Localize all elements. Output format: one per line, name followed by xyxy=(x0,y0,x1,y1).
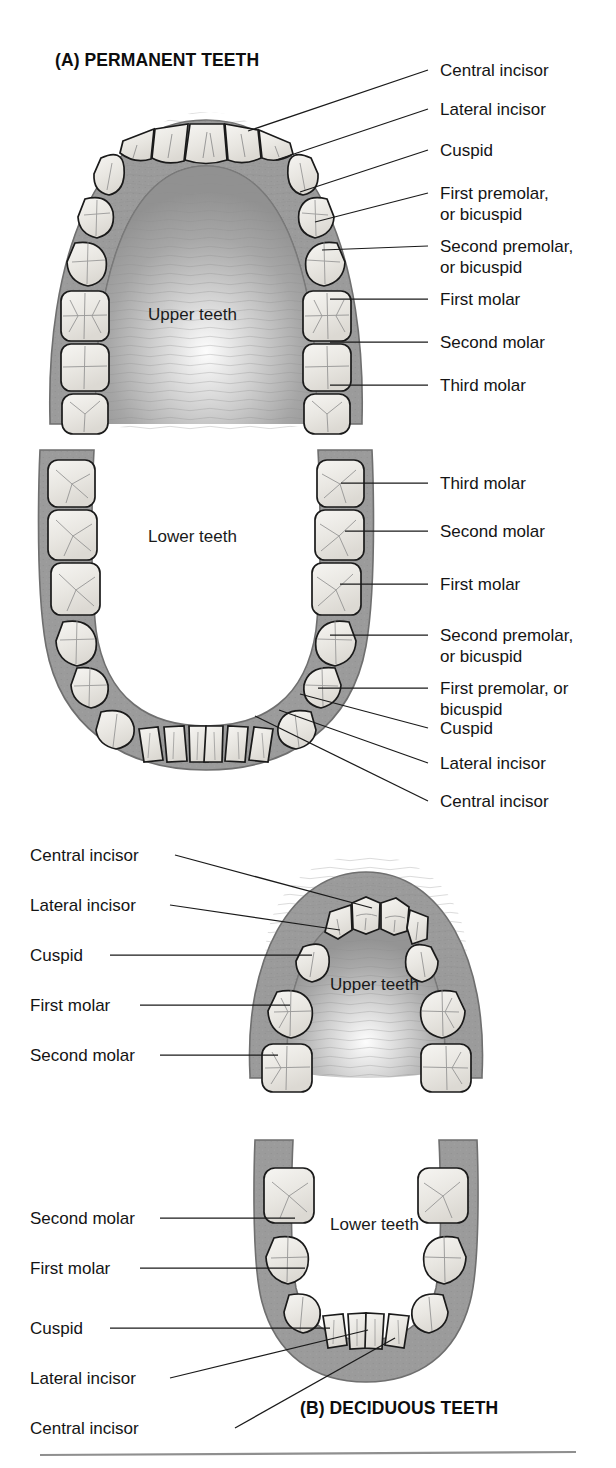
permanent-lower-label: First premolar, or bicuspid xyxy=(440,678,568,720)
permanent-upper-label: Second molar xyxy=(440,332,545,353)
deciduous-upper-label: Lateral incisor xyxy=(30,895,136,916)
permanent-lower-label: Lateral incisor xyxy=(440,753,546,774)
deciduous-lower-label: Central incisor xyxy=(30,1418,139,1439)
permanent-lower-leader xyxy=(255,716,428,801)
permanent-lower-label: Central incisor xyxy=(440,791,549,812)
permanent-upper-leader xyxy=(300,150,428,192)
permanent-upper-label: Second premolar, or bicuspid xyxy=(440,236,573,278)
permanent-upper-label: Third molar xyxy=(440,375,526,396)
permanent-lower-label: Cuspid xyxy=(440,718,493,739)
caption-deciduous-upper: Upper teeth xyxy=(330,975,419,995)
deciduous-lower-label: Second molar xyxy=(30,1208,135,1229)
caption-permanent-lower: Lower teeth xyxy=(148,527,237,547)
permanent-upper-label: First premolar, or bicuspid xyxy=(440,183,549,225)
permanent-upper-label: First molar xyxy=(440,289,520,310)
deciduous-lower-label: First molar xyxy=(30,1258,110,1279)
permanent-lower-label: Second molar xyxy=(440,521,545,542)
permanent-lower-label: Third molar xyxy=(440,473,526,494)
section-a-title: (A) PERMANENT TEETH xyxy=(55,50,259,71)
deciduous-upper-label: Second molar xyxy=(30,1045,135,1066)
permanent-lower-arch xyxy=(39,450,374,770)
permanent-upper-leader xyxy=(248,70,428,131)
deciduous-upper-label: Central incisor xyxy=(30,845,139,866)
section-b-title: (B) DECIDUOUS TEETH xyxy=(300,1398,498,1419)
figure-page: (A) PERMANENT TEETH (B) DECIDUOUS TEETH … xyxy=(0,0,616,1468)
caption-permanent-upper: Upper teeth xyxy=(148,305,237,325)
permanent-upper-label: Cuspid xyxy=(440,140,493,161)
bottom-rule xyxy=(40,1452,576,1455)
permanent-lower-label: First molar xyxy=(440,574,520,595)
permanent-upper-leader xyxy=(276,109,428,160)
caption-deciduous-lower: Lower teeth xyxy=(330,1215,419,1235)
permanent-lower-label: Second premolar, or bicuspid xyxy=(440,625,573,667)
deciduous-upper-arch xyxy=(249,855,482,1092)
permanent-upper-label: Central incisor xyxy=(440,60,549,81)
permanent-upper-arch xyxy=(50,112,362,434)
deciduous-upper-label: First molar xyxy=(30,995,110,1016)
deciduous-lower-label: Lateral incisor xyxy=(30,1368,136,1389)
deciduous-lower-arch xyxy=(254,1140,478,1382)
deciduous-upper-label: Cuspid xyxy=(30,945,83,966)
deciduous-lower-label: Cuspid xyxy=(30,1318,83,1339)
permanent-upper-leader xyxy=(315,193,428,222)
permanent-upper-label: Lateral incisor xyxy=(440,99,546,120)
